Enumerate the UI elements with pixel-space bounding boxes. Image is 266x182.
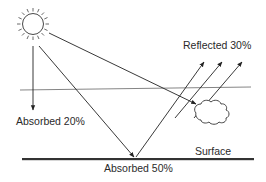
atmosphere-boundary — [20, 87, 251, 90]
reflected-surface-arrow — [136, 62, 204, 157]
ground-surface — [22, 158, 254, 160]
absorbed-atmosphere-label: Absorbed 20% — [16, 116, 85, 127]
incoming-to-cloud-arrow — [49, 33, 196, 104]
sun-icon — [17, 8, 49, 40]
absorbed-surface-label: Absorbed 50% — [104, 163, 173, 174]
incoming-to-surface-arrow — [39, 46, 134, 157]
reflected-label: Reflected 30% — [183, 40, 251, 51]
cloud-icon — [195, 100, 229, 124]
surface-label: Surface — [195, 146, 231, 157]
